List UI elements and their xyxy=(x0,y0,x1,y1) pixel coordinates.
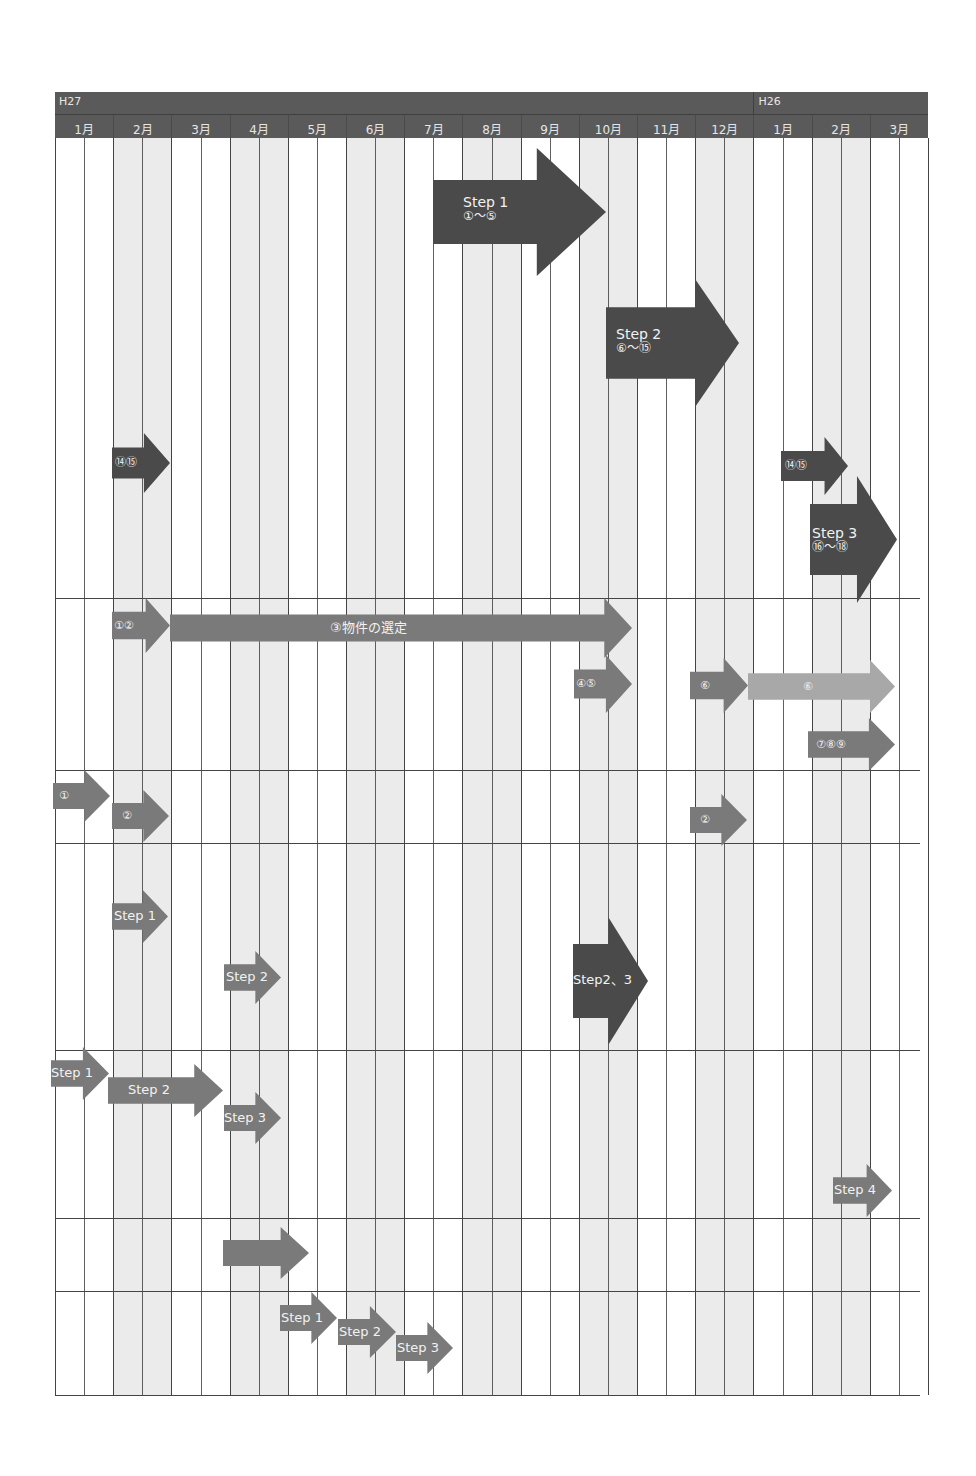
month-label: 10月 xyxy=(579,114,637,138)
grid-vline xyxy=(550,138,551,1395)
grid-vline xyxy=(288,138,289,1395)
schedule-arrow-r2-45: ④⑤ xyxy=(574,655,632,713)
arrow-label-range: ①〜⑤ xyxy=(463,209,508,223)
grid-vline xyxy=(462,138,463,1395)
schedule-arrow-step1-main: Step 1①〜⑤ xyxy=(433,148,606,276)
arrow-right-icon xyxy=(690,794,747,846)
schedule-arrow-r2-789: ⑦⑧⑨ xyxy=(808,718,895,771)
schedule-arrow-r6-unlabeled xyxy=(223,1227,309,1279)
gantt-chart: H27H261月2月3月4月5月6月7月8月9月10月11月12月1月2月3月 … xyxy=(0,0,976,1476)
arrow-label-title: ①② xyxy=(114,619,134,633)
schedule-arrow-r2-6-dark: ⑥ xyxy=(690,658,748,713)
arrow-label-title: Step2、3 xyxy=(573,973,632,987)
grid-vline xyxy=(521,138,522,1395)
arrow-label: ④⑤ xyxy=(576,677,596,691)
arrow-label: Step 1 xyxy=(114,909,156,923)
schedule-arrow-r2-6-light: ⑥ xyxy=(748,660,895,713)
arrow-label-title: Step 2 xyxy=(339,1325,381,1339)
schedule-arrow-r2-12: ①② xyxy=(112,598,170,653)
arrow-label: ② xyxy=(122,809,132,823)
arrow-label-title: ④⑤ xyxy=(576,677,596,691)
grid-hline xyxy=(55,1291,920,1292)
arrow-label-title: Step 1 xyxy=(463,195,508,209)
arrow-label: ⑦⑧⑨ xyxy=(816,738,846,752)
arrow-label-title: Step 3 xyxy=(812,526,857,540)
month-label: 9月 xyxy=(521,114,579,138)
arrow-label: ⑥ xyxy=(700,679,710,693)
schedule-arrow-r5-step1: Step 1 xyxy=(51,1047,109,1100)
arrow-label: ① xyxy=(59,789,69,803)
schedule-arrow-r3-2-left: ② xyxy=(112,790,169,842)
arrow-label: ⑥ xyxy=(803,680,813,694)
arrow-label: Step 4 xyxy=(834,1183,876,1197)
month-label: 4月 xyxy=(230,114,288,138)
arrow-label: Step 3⑯〜⑱ xyxy=(812,526,857,554)
arrow-label: Step 2 xyxy=(128,1083,170,1097)
schedule-arrow-step3-main: Step 3⑯〜⑱ xyxy=(810,476,897,603)
arrow-label-title: ① xyxy=(59,789,69,803)
arrow-label-title: ③物件の選定 xyxy=(330,621,407,635)
arrow-label-title: Step 1 xyxy=(114,909,156,923)
arrow-label-title: ② xyxy=(700,813,710,827)
grid-vline xyxy=(753,138,754,1395)
month-label: 3月 xyxy=(171,114,229,138)
arrow-label-title: ⑦⑧⑨ xyxy=(816,738,846,752)
arrow-label: Step 3 xyxy=(224,1111,266,1125)
arrow-label-title: Step 2 xyxy=(226,970,268,984)
grid-vline xyxy=(928,138,929,1395)
arrow-right-icon xyxy=(748,660,895,713)
arrow-label-title: Step 3 xyxy=(397,1341,439,1355)
arrow-label: ⑭⑮ xyxy=(785,459,807,473)
arrow-label-title: ② xyxy=(122,809,132,823)
schedule-arrow-r4-step1: Step 1 xyxy=(112,890,168,943)
year-label: H26 xyxy=(753,92,928,114)
grid-vline xyxy=(404,138,405,1395)
month-label: 1月 xyxy=(753,114,811,138)
arrow-label-title: ⑥ xyxy=(803,680,813,694)
arrow-label-title: ⑥ xyxy=(700,679,710,693)
arrow-right-icon xyxy=(112,790,169,842)
month-label: 11月 xyxy=(637,114,695,138)
grid-vline xyxy=(433,138,434,1395)
grid-vline xyxy=(201,138,202,1395)
grid-hline xyxy=(55,1050,920,1051)
grid-vline xyxy=(84,138,85,1395)
month-label: 7月 xyxy=(404,114,462,138)
arrow-label: ② xyxy=(700,813,710,827)
grid-vline xyxy=(899,138,900,1395)
arrow-right-icon xyxy=(690,658,748,713)
arrow-right-icon xyxy=(433,148,606,276)
schedule-arrow-r7-step1: Step 1 xyxy=(280,1292,337,1344)
month-label: 6月 xyxy=(346,114,404,138)
arrow-label: Step 1 xyxy=(51,1066,93,1080)
grid-vline xyxy=(783,138,784,1395)
month-label: 1月 xyxy=(55,114,113,138)
month-label: 3月 xyxy=(870,114,928,138)
arrow-label-title: Step 2 xyxy=(128,1083,170,1097)
arrow-label-title: Step 3 xyxy=(224,1111,266,1125)
arrow-label: Step2、3 xyxy=(573,973,632,987)
schedule-arrow-step2-main: Step 2⑥〜⑮ xyxy=(606,279,739,407)
grid-vline xyxy=(230,138,231,1395)
arrow-label-title: ⑭⑮ xyxy=(115,456,137,470)
arrow-label: Step 3 xyxy=(397,1341,439,1355)
month-label: 2月 xyxy=(812,114,870,138)
arrow-label-title: ⑭⑮ xyxy=(785,459,807,473)
grid-vline xyxy=(113,138,114,1395)
schedule-arrow-r4-step23: Step2、3 xyxy=(573,917,648,1045)
arrow-label-title: Step 4 xyxy=(834,1183,876,1197)
grid-hline xyxy=(55,843,920,844)
grid-vline xyxy=(171,138,172,1395)
arrow-label-title: Step 1 xyxy=(281,1311,323,1325)
schedule-arrow-r7-step3: Step 3 xyxy=(396,1322,453,1374)
arrow-label: ③物件の選定 xyxy=(330,621,407,635)
schedule-arrow-r5-step3: Step 3 xyxy=(224,1092,281,1144)
arrow-label: Step 2 xyxy=(339,1325,381,1339)
schedule-arrow-r4-step2: Step 2 xyxy=(224,951,281,1004)
schedule-arrow-r5-step2: Step 2 xyxy=(108,1064,223,1117)
grid-vline xyxy=(492,138,493,1395)
schedule-arrow-r2-3-bukken: ③物件の選定 xyxy=(170,598,632,658)
grid-vline xyxy=(55,138,56,1395)
grid-vline xyxy=(579,138,580,1395)
arrow-label: Step 1①〜⑤ xyxy=(463,195,508,223)
